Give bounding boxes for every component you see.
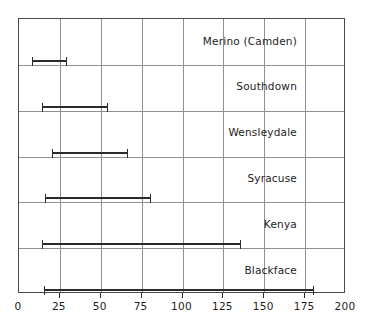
x-axis-tick	[59, 293, 60, 298]
x-axis-tick	[100, 293, 101, 298]
range-cap-high	[66, 57, 67, 66]
x-axis-tick	[222, 293, 223, 298]
x-axis-label: 75	[134, 300, 148, 312]
x-axis-label: 0	[15, 300, 22, 312]
gridline-vertical	[305, 19, 306, 292]
gridline-horizontal	[19, 111, 344, 112]
gridline-horizontal	[19, 202, 344, 203]
category-label: Southdown	[236, 80, 297, 92]
range-bar	[32, 60, 66, 62]
range-bar	[52, 152, 127, 154]
category-label: Syracuse	[247, 172, 297, 184]
x-axis-label: 25	[52, 300, 66, 312]
x-axis-tick	[182, 293, 183, 298]
range-cap-low	[32, 57, 33, 66]
range-chart: Merino (Camden)SouthdownWensleydaleSyrac…	[0, 0, 369, 319]
x-axis-label: 150	[253, 300, 274, 312]
x-axis-label: 50	[93, 300, 107, 312]
gridline-vertical	[183, 19, 184, 292]
range-cap-high	[313, 286, 314, 295]
range-cap-low	[42, 103, 43, 112]
range-cap-low	[45, 194, 46, 203]
x-axis-label: 175	[294, 300, 315, 312]
category-label: Kenya	[264, 218, 297, 230]
category-label: Merino (Camden)	[203, 35, 297, 47]
x-axis-tick	[304, 293, 305, 298]
x-axis-tick	[263, 293, 264, 298]
range-cap-high	[240, 240, 241, 249]
gridline-vertical	[264, 19, 265, 292]
range-bar	[42, 106, 107, 108]
gridline-horizontal	[19, 65, 344, 66]
range-cap-high	[127, 149, 128, 158]
range-bar	[44, 289, 314, 291]
range-cap-high	[150, 194, 151, 203]
range-bar	[45, 197, 150, 199]
range-cap-high	[107, 103, 108, 112]
gridline-vertical	[223, 19, 224, 292]
gridline-horizontal	[19, 248, 344, 249]
category-label: Blackface	[244, 264, 297, 276]
x-axis-label: 200	[335, 300, 356, 312]
gridline-horizontal	[19, 157, 344, 158]
range-bar	[42, 243, 240, 245]
gridline-vertical	[101, 19, 102, 292]
range-cap-low	[42, 240, 43, 249]
x-axis-label: 100	[171, 300, 192, 312]
plot-area: Merino (Camden)SouthdownWensleydaleSyrac…	[18, 18, 345, 293]
range-cap-low	[44, 286, 45, 295]
category-label: Wensleydale	[228, 126, 297, 138]
x-axis-tick	[141, 293, 142, 298]
range-cap-low	[52, 149, 53, 158]
x-axis-label: 125	[212, 300, 233, 312]
gridline-vertical	[142, 19, 143, 292]
